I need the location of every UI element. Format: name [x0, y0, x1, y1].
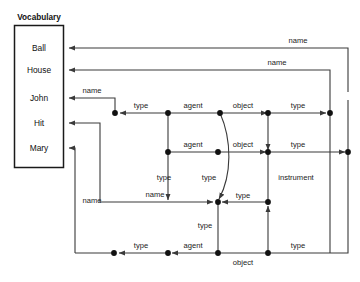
diagram-canvas: ... --> Vocabulary Ball House John	[0, 0, 360, 282]
node-mary-instance	[111, 250, 117, 256]
label-name-top: name	[289, 36, 308, 45]
edge-type-curve	[219, 113, 229, 199]
label-type-row3: type	[236, 191, 250, 200]
node-event1-object	[265, 110, 271, 116]
graph-svg: ... --> Vocabulary Ball House John	[0, 0, 360, 282]
node-event2	[215, 149, 221, 155]
label-name-second: name	[268, 58, 287, 67]
node-mid-right	[265, 199, 271, 205]
label-type-row1-left: type	[134, 101, 148, 110]
node-event3	[215, 250, 221, 256]
vocabulary-item-mary: Mary	[30, 143, 49, 153]
vocabulary-item-ball: Ball	[32, 43, 46, 53]
edge-name-hit	[69, 123, 100, 202]
label-name-mid: name	[146, 190, 165, 199]
label-type-vert-lower: type	[198, 221, 212, 230]
label-agent-row4: agent	[183, 241, 203, 250]
node-event1	[217, 110, 223, 116]
node-hit-concept	[215, 199, 221, 205]
vocabulary-item-house: House	[27, 65, 52, 75]
node-event1-agent	[165, 110, 171, 116]
label-type-row1-right: type	[291, 101, 305, 110]
label-type-vert-left: type	[157, 173, 171, 182]
label-agent-row2: agent	[183, 140, 203, 149]
node-type-right1	[327, 110, 333, 116]
label-name-left-mary: name	[83, 196, 102, 205]
node-event2-agent	[165, 149, 171, 155]
node-event3-object	[265, 250, 271, 256]
node-event2-object	[265, 149, 271, 155]
label-type-row2: type	[291, 140, 305, 149]
label-object-row4: object	[233, 258, 254, 267]
node-event3-agent	[165, 250, 171, 256]
vocabulary-item-john: John	[30, 93, 49, 103]
edge-name-mary	[69, 148, 75, 253]
edge-name-john	[69, 98, 115, 113]
label-type-vert-mid: type	[202, 173, 216, 182]
label-object-row2: object	[233, 140, 254, 149]
vocabulary-item-hit: Hit	[34, 118, 45, 128]
label-type-row4-right: type	[291, 241, 305, 250]
label-agent-row1: agent	[183, 101, 203, 110]
vocabulary-title: Vocabulary	[17, 13, 61, 22]
label-type-row4-left: type	[134, 241, 148, 250]
label-name-john: name	[83, 86, 102, 95]
label-object-row1: object	[233, 101, 254, 110]
node-john-instance	[112, 110, 118, 116]
label-instrument: instrument	[278, 173, 314, 182]
node-type-right2	[345, 149, 351, 155]
